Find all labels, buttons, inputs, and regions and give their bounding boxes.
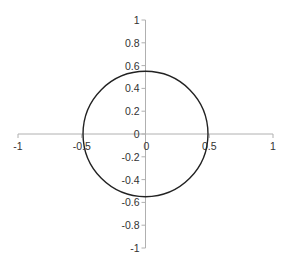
y-tick-label: 0.8: [125, 37, 140, 49]
chart: -1-0.50.510 10.80.60.40.20-0.2-0.4-0.6-0…: [0, 0, 296, 266]
y-tick-label: 0: [134, 128, 140, 140]
y-tick-label: -0.2: [121, 151, 139, 163]
y-axis: [142, 20, 146, 248]
y-tick-label: -0.4: [121, 174, 139, 186]
x-tick-labels: -1-0.50.510: [13, 140, 276, 152]
x-tick-label: -1: [13, 140, 22, 152]
y-tick-label: 0.2: [125, 105, 140, 117]
y-tick-label: 0.4: [125, 82, 140, 94]
y-tick-label: -0.6: [121, 196, 139, 208]
y-tick-label: -1: [130, 242, 139, 254]
x-tick-label: 0: [144, 140, 150, 152]
y-tick-label: 0.6: [125, 60, 140, 72]
y-tick-label: -0.8: [121, 219, 139, 231]
x-tick-label: 0.5: [202, 140, 217, 152]
x-tick-label: -0.5: [73, 140, 91, 152]
x-tick-label: 1: [270, 140, 276, 152]
y-tick-label: 1: [134, 14, 140, 26]
